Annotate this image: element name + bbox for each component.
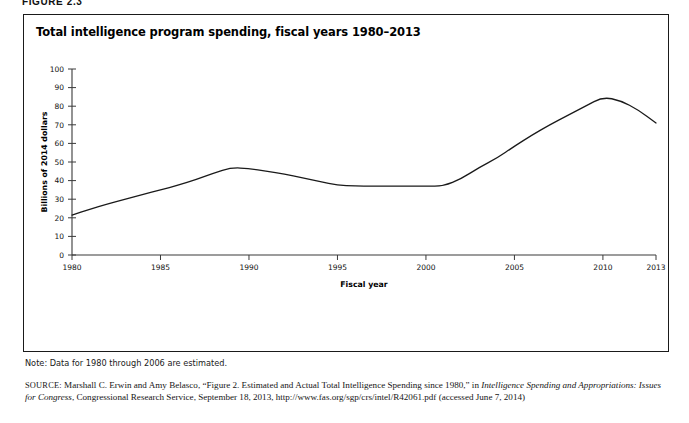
series-line-0 bbox=[72, 98, 656, 215]
figure-label: FIGURE 2.3 bbox=[22, 0, 82, 7]
figure-box: Total intelligence program spending, fis… bbox=[23, 14, 669, 352]
x-tick-label-2005: 2005 bbox=[505, 263, 524, 272]
y-tick-label-20: 20 bbox=[54, 214, 64, 223]
source-text-1: Marshall C. Erwin and Amy Belasco, “Figu… bbox=[62, 380, 481, 390]
x-tick-label-1990: 1990 bbox=[239, 263, 258, 272]
y-tick-label-40: 40 bbox=[54, 176, 64, 185]
y-tick-label-100: 100 bbox=[50, 65, 65, 74]
y-axis: 0102030405060708090100 bbox=[50, 65, 76, 260]
x-tick-label-2000: 2000 bbox=[416, 263, 435, 272]
x-tick-label-1985: 1985 bbox=[151, 263, 170, 272]
y-axis-title: Billions of 2014 dollars bbox=[40, 111, 49, 212]
data-series bbox=[72, 98, 656, 215]
line-chart: 0102030405060708090100 19801985199019952… bbox=[24, 15, 670, 351]
x-axis: 19801985199019952000200520102013 bbox=[62, 255, 665, 272]
x-axis-title: Fiscal year bbox=[340, 280, 388, 289]
y-tick-label-50: 50 bbox=[54, 158, 64, 167]
y-tick-label-10: 10 bbox=[54, 232, 64, 241]
x-tick-label-2013: 2013 bbox=[646, 263, 665, 272]
source-text-2: , Congressional Research Service, Septem… bbox=[72, 392, 525, 402]
figure-source: SOURCE: Marshall C. Erwin and Amy Belasc… bbox=[25, 380, 665, 403]
chart-plot-area: 0102030405060708090100 19801985199019952… bbox=[24, 15, 670, 351]
y-tick-label-80: 80 bbox=[54, 102, 64, 111]
y-tick-label-30: 30 bbox=[54, 195, 64, 204]
x-tick-label-1980: 1980 bbox=[62, 263, 81, 272]
y-tick-label-90: 90 bbox=[54, 83, 64, 92]
y-tick-label-60: 60 bbox=[54, 139, 64, 148]
x-tick-label-1995: 1995 bbox=[328, 263, 347, 272]
figure-note: Note: Data for 1980 through 2006 are est… bbox=[25, 358, 227, 368]
y-tick-label-0: 0 bbox=[59, 251, 64, 260]
source-label: SOURCE: bbox=[25, 381, 62, 390]
x-tick-label-2010: 2010 bbox=[593, 263, 612, 272]
y-tick-label-70: 70 bbox=[54, 121, 64, 130]
